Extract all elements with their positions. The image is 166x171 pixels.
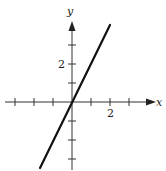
x-tick-label-2: 2: [107, 107, 114, 120]
graph: y x 2 2: [0, 0, 166, 171]
y-axis-arrow-icon: [69, 21, 76, 31]
x-axis-label: x: [156, 96, 163, 109]
y-axis-label: y: [66, 5, 74, 18]
data-line: [40, 25, 110, 168]
x-axis-arrow-icon: [146, 99, 156, 106]
y-tick-label-2: 2: [58, 58, 65, 71]
